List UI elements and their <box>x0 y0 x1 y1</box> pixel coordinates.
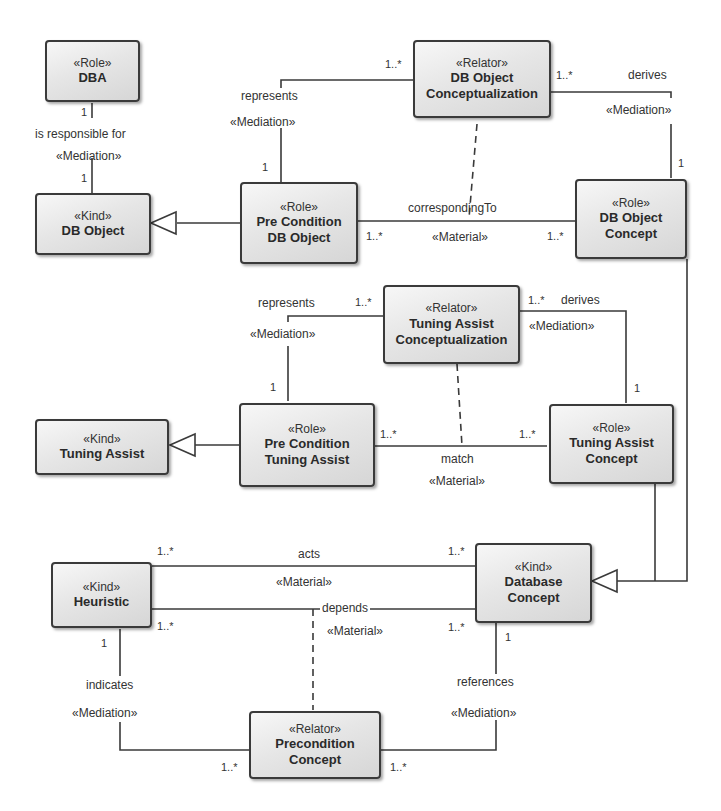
stereotype-label: «Relator» <box>289 722 341 737</box>
assoc-name-label: correspondingTo <box>408 201 497 215</box>
assoc-stereotype-label: «Material» <box>429 474 485 488</box>
class-name-line2: Concept <box>605 226 657 242</box>
assoc-name-label: derives <box>561 293 600 307</box>
assoc-stereotype-label: «Mediation» <box>56 149 121 163</box>
class-db-object-conceptualization[interactable]: «Relator» DB Object Conceptualization <box>413 40 551 118</box>
multiplicity: 1..* <box>448 545 465 557</box>
class-name-line2: DB Object <box>268 230 331 246</box>
stereotype-label: «Role» <box>592 421 630 436</box>
assoc-stereotype-label: «Material» <box>327 624 383 638</box>
class-db-object-concept[interactable]: «Role» DB Object Concept <box>575 179 687 259</box>
stereotype-label: «Role» <box>280 200 318 215</box>
assoc-stereotype-label: «Mediation» <box>230 115 295 129</box>
class-name-line1: Pre Condition <box>264 436 349 452</box>
assoc-stereotype-label: «Mediation» <box>72 706 137 720</box>
class-tuning-assist[interactable]: «Kind» Tuning Assist <box>35 419 169 475</box>
class-precondition-concept[interactable]: «Relator» Precondition Concept <box>249 711 381 779</box>
assoc-name-label: match <box>441 452 474 466</box>
stereotype-label: «Role» <box>288 422 326 437</box>
multiplicity: 1 <box>262 161 268 173</box>
class-pre-condition-tuning-assist[interactable]: «Role» Pre Condition Tuning Assist <box>239 403 375 487</box>
generalization-arrowhead <box>151 212 176 234</box>
multiplicity: 1..* <box>528 294 545 306</box>
stereotype-label: «Kind» <box>83 432 120 447</box>
multiplicity: 1..* <box>547 230 564 242</box>
multiplicity: 1 <box>678 157 684 169</box>
class-dba[interactable]: «Role» DBA <box>45 40 140 102</box>
stereotype-label: «Relator» <box>456 56 508 71</box>
assoc-name-label: represents <box>258 296 315 310</box>
class-name-line2: Concept <box>289 752 341 768</box>
class-pre-condition-db-object[interactable]: «Role» Pre Condition DB Object <box>240 182 358 264</box>
multiplicity: 1..* <box>355 296 372 308</box>
multiplicity: 1..* <box>385 58 402 70</box>
multiplicity: 1..* <box>448 621 465 633</box>
class-tuning-assist-concept[interactable]: «Role» Tuning Assist Concept <box>549 404 674 484</box>
multiplicity: 1..* <box>390 761 407 773</box>
multiplicity: 1..* <box>380 428 397 440</box>
class-name: Tuning Assist <box>60 446 145 462</box>
multiplicity: 1..* <box>221 761 238 773</box>
assoc-name-label: acts <box>298 547 320 561</box>
class-name-line1: DB Object <box>451 70 514 86</box>
class-name: Heuristic <box>74 594 130 610</box>
class-name-line1: Precondition <box>275 736 354 752</box>
multiplicity: 1 <box>505 631 511 643</box>
multiplicity: 1 <box>81 172 87 184</box>
class-name-line1: Database <box>505 574 563 590</box>
stereotype-label: «Role» <box>73 56 111 71</box>
class-name-line1: Tuning Assist <box>409 316 494 332</box>
generalization-arrowhead <box>170 434 195 456</box>
class-name-line2: Conceptualization <box>396 332 508 348</box>
assoc-stereotype-label: «Material» <box>432 230 488 244</box>
class-tuning-assist-conceptualization[interactable]: «Relator» Tuning Assist Conceptualizatio… <box>383 285 520 364</box>
assoc-stereotype-label: «Mediation» <box>451 706 516 720</box>
assoc-stereotype-label: «Mediation» <box>606 103 671 117</box>
assoc-name-label: references <box>457 675 514 689</box>
class-name-line1: DB Object <box>600 210 663 226</box>
assoc-stereotype-label: «Mediation» <box>250 327 315 341</box>
multiplicity: 1..* <box>556 69 573 81</box>
stereotype-label: «Role» <box>612 196 650 211</box>
multiplicity: 1..* <box>157 545 174 557</box>
class-name-line2: Concept <box>508 590 560 606</box>
class-name-line2: Conceptualization <box>426 86 538 102</box>
multiplicity: 1 <box>270 381 276 393</box>
relator-dashed-link-ta <box>457 364 462 446</box>
class-heuristic[interactable]: «Kind» Heuristic <box>51 562 152 628</box>
assoc-name-label: indicates <box>86 678 133 692</box>
assoc-name-label: is responsible for <box>35 127 126 141</box>
multiplicity: 1..* <box>157 620 174 632</box>
class-name-line2: Tuning Assist <box>265 452 350 468</box>
stereotype-label: «Relator» <box>425 301 477 316</box>
class-name-line2: Concept <box>586 451 638 467</box>
multiplicity: 1..* <box>519 428 536 440</box>
stereotype-label: «Kind» <box>74 209 111 224</box>
class-name-line1: Tuning Assist <box>569 435 654 451</box>
multiplicity: 1 <box>101 637 107 649</box>
multiplicity: 1 <box>81 106 87 118</box>
multiplicity: 1..* <box>366 230 383 242</box>
stereotype-label: «Kind» <box>83 580 120 595</box>
class-name: DBA <box>78 70 106 86</box>
stereotype-label: «Kind» <box>515 560 552 575</box>
assoc-stereotype-label: «Material» <box>276 575 332 589</box>
assoc-stereotype-label: «Mediation» <box>529 319 594 333</box>
generalization-arrowhead <box>592 570 617 592</box>
assoc-name-label: represents <box>241 89 298 103</box>
multiplicity: 1 <box>634 382 640 394</box>
class-name: DB Object <box>62 223 125 239</box>
class-name-line1: Pre Condition <box>256 214 341 230</box>
class-db-object[interactable]: «Kind» DB Object <box>35 193 151 255</box>
class-database-concept[interactable]: «Kind» Database Concept <box>475 543 592 623</box>
assoc-name-label: derives <box>628 68 667 82</box>
assoc-name-label: depends <box>320 601 370 615</box>
